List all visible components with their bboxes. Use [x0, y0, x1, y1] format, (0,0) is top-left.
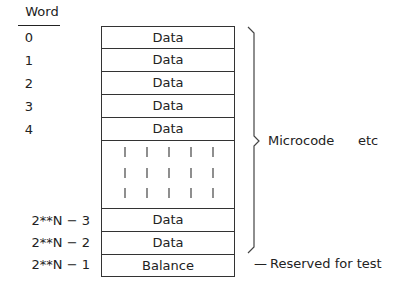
reserved-for-test-label: Reserved for test: [270, 256, 382, 271]
ellipsis-ticks: [125, 147, 213, 198]
brace-label-microcode: Microcode: [268, 133, 334, 148]
curly-brace-icon: [248, 27, 259, 253]
reserved-dash: —: [254, 256, 267, 271]
brace-label-etc: etc: [358, 133, 378, 148]
diagram-graphics: [0, 0, 411, 286]
